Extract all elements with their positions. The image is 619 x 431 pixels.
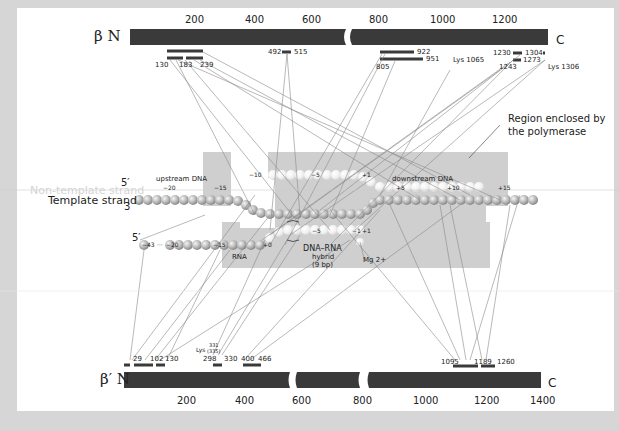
beta-c-terminus-label: C	[556, 34, 564, 46]
rna-pos-minus-15: −15	[213, 242, 226, 248]
three-prime-label: 3	[124, 202, 130, 212]
annotation-line-2: the polymerase	[508, 125, 605, 138]
rna-label: RNA	[232, 254, 247, 261]
mg-ion-label: Mg 2+	[363, 257, 386, 264]
beta-tick-800: 800	[369, 15, 388, 25]
beta-subunit-label: β N	[94, 29, 121, 44]
beta-tick-200: 200	[185, 15, 204, 25]
beta-region-130: 130	[155, 62, 168, 69]
rna-pos-minus-5: −5	[312, 228, 321, 234]
hybrid-label-2: hybrid	[312, 254, 334, 261]
beta-prime-tick-1200: 1200	[474, 396, 499, 406]
beta-region-951: 951	[426, 56, 439, 63]
beta-prime-lys-label: Lys	[196, 347, 205, 353]
beta-prime-region-1095: 1095	[441, 359, 459, 366]
beta-region-1273: 1273	[523, 57, 541, 64]
beta-prime-region-330: 330	[224, 356, 237, 363]
beta-prime-tick-400: 400	[235, 396, 254, 406]
beta-bar	[130, 29, 548, 45]
beta-prime-region-1260: 1260	[497, 359, 515, 366]
rna-ellipsis: ···	[157, 242, 163, 248]
beta-region-515: 515	[294, 49, 307, 56]
beta-lys-1306: Lys 1306	[548, 64, 579, 71]
beta-prime-region-1189: 1189	[474, 359, 492, 366]
beta-prime-tick-600: 600	[292, 396, 311, 406]
beta-region-1230: 1230	[493, 50, 511, 57]
beta-region-1243: 1243	[499, 64, 517, 71]
pos-minus-15: −15	[214, 185, 227, 191]
beta-prime-regions	[124, 365, 495, 366]
annotation-line-1: Region enclosed by	[508, 112, 605, 125]
pos-plus-15: +15	[498, 185, 511, 191]
beta-prime-subunit-label: β′ N	[100, 372, 130, 387]
upstream-dna-label: upstream DNA	[156, 176, 207, 183]
beta-prime-tick-1000: 1000	[413, 396, 438, 406]
beta-regions	[167, 51, 545, 60]
beta-tick-1200: 1200	[492, 15, 517, 25]
five-prime-rna-label: 5′	[132, 233, 141, 243]
rna-pos-minus-43: −43	[142, 242, 155, 248]
pos-minus-10: −10	[249, 172, 262, 178]
pos-plus-5: +5	[396, 185, 405, 191]
pos-plus-1: +1	[362, 172, 371, 178]
beta-tick-400: 400	[245, 15, 264, 25]
polymerase-region-annotation: Region enclosed by the polymerase	[508, 112, 605, 138]
beta-tick-600: 600	[302, 15, 321, 25]
beta-prime-region-400: 400	[241, 356, 254, 363]
beta-prime-tick-800: 800	[353, 396, 372, 406]
beta-region-492: 492	[268, 49, 281, 56]
beta-prime-region-102: 102	[150, 356, 163, 363]
pos-plus-10: +10	[447, 185, 460, 191]
beta-prime-lys-335: (335)	[207, 349, 220, 354]
beta-prime-region-466: 466	[258, 356, 271, 363]
hybrid-label-3: (9 bp)	[312, 262, 333, 269]
rna-pos-plus-0: +0	[263, 242, 272, 248]
hybrid-label-1: DNA–RNA	[303, 245, 342, 253]
beta-prime-region-29: 29	[133, 356, 142, 363]
beta-region-805: 805	[376, 64, 389, 71]
rna-pos-minus-1: −1	[352, 228, 361, 234]
beta-prime-c-terminus-label: C	[548, 377, 556, 389]
downstream-dna-label: downstream DNA	[392, 176, 453, 183]
beta-prime-tick-1400: 1400	[530, 396, 555, 406]
beta-prime-region-130: 130	[165, 356, 178, 363]
rna-pos-minus-20: −20	[166, 242, 179, 248]
beta-lys-1065: Lys 1065	[453, 57, 484, 64]
pos-minus-5: −5	[311, 172, 320, 178]
beta-region-183: 183	[179, 62, 192, 69]
beta-prime-region-298: 298	[203, 356, 216, 363]
beta-prime-tick-200: 200	[177, 396, 196, 406]
pos-minus-20: −20	[163, 185, 176, 191]
beta-region-239: 239	[200, 62, 213, 69]
beta-tick-1000: 1000	[430, 15, 455, 25]
diagram-graphics	[0, 0, 619, 431]
beta-prime-bar	[124, 372, 541, 388]
rna-pos-plus-1: +1	[362, 228, 371, 234]
